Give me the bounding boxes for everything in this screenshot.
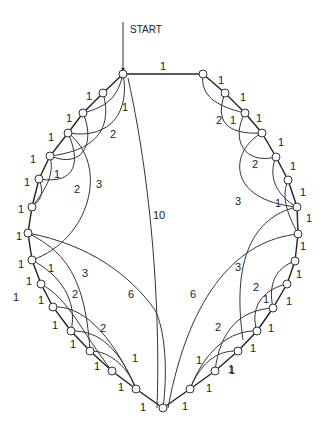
edge-weight: 3 — [235, 195, 241, 207]
edge-weight: 1 — [140, 401, 146, 413]
edge-weight: 1 — [218, 74, 224, 86]
left-arc-3 — [50, 93, 106, 156]
node — [108, 367, 116, 375]
left-arc-2 — [68, 74, 124, 134]
node — [291, 257, 299, 265]
edge-weight: 1 — [196, 354, 202, 366]
node — [49, 303, 57, 311]
right-long-arc — [168, 234, 298, 408]
node — [293, 203, 301, 211]
edge-weight: 1 — [263, 293, 269, 305]
node — [186, 385, 194, 393]
edge-weight: 1 — [296, 268, 302, 280]
node — [211, 367, 219, 375]
node — [269, 304, 277, 312]
edge-weight: 1 — [16, 230, 22, 242]
edge-weight: 1 — [182, 400, 188, 412]
edge-weight-labels: 1111111111111111212313221111111111111111… — [13, 74, 312, 413]
edge-weight: 1 — [132, 352, 138, 364]
edge-weight: 1 — [300, 186, 306, 198]
edge-weight: 1 — [48, 131, 54, 143]
node — [28, 256, 36, 264]
edge-weight: 1 — [66, 112, 72, 124]
edge-weight: 1 — [240, 91, 246, 103]
edge-weight: 1 — [86, 90, 92, 102]
edge-weight: 1 — [229, 364, 235, 376]
edge-weight: 1 — [18, 258, 24, 270]
node — [64, 129, 72, 137]
edge-weight: 1 — [70, 338, 76, 350]
node — [199, 70, 207, 78]
node — [241, 109, 249, 117]
node — [284, 176, 292, 184]
node — [221, 89, 229, 97]
node — [253, 327, 261, 335]
edge-weight: 2 — [215, 321, 221, 333]
edge-weight: 1 — [290, 160, 296, 172]
node — [294, 230, 302, 238]
node — [258, 129, 266, 137]
edge-weight: 1 — [250, 342, 256, 354]
edge-weight: 3 — [96, 178, 102, 190]
right-long-weight: 6 — [190, 288, 196, 300]
node — [272, 153, 280, 161]
edge-weight: 1 — [306, 212, 312, 224]
edge-weight: 1 — [300, 240, 306, 252]
left-long-weight: 6 — [128, 288, 134, 300]
start-label: START — [130, 24, 162, 35]
edge-weight: 3 — [235, 261, 241, 273]
edge-weight: 3 — [82, 267, 88, 279]
edge-weight: 1 — [30, 153, 36, 165]
node — [283, 280, 291, 288]
right-arc-6 — [240, 207, 297, 340]
node — [86, 347, 94, 355]
graph-svg: START 1 6 10 6 — [0, 0, 326, 436]
node — [35, 175, 43, 183]
node — [46, 152, 54, 160]
left-arc-8 — [28, 233, 90, 351]
edge-weight: 1 — [26, 275, 32, 287]
edge-weight: 1 — [54, 168, 60, 180]
edge-weight: 1 — [24, 176, 30, 188]
node — [132, 385, 140, 393]
node — [79, 109, 87, 117]
edge-weight: 2 — [253, 281, 259, 293]
edge-weight: 1 — [275, 197, 281, 209]
node — [28, 203, 36, 211]
edge-weight: 2 — [216, 114, 222, 126]
center-edge-weight: 10 — [153, 209, 165, 221]
edge-weight: 1 — [13, 291, 19, 303]
edge-weight: 1 — [94, 360, 100, 372]
node — [67, 327, 75, 335]
edge-weight: 1 — [48, 262, 54, 274]
edge-weight: 1 — [286, 295, 292, 307]
left-arc-11 — [53, 307, 136, 389]
edge-weight: 1 — [38, 294, 44, 306]
edge-weight: 2 — [110, 128, 116, 140]
edge-weight: 1 — [122, 101, 128, 113]
node — [37, 280, 45, 288]
node — [119, 70, 127, 78]
edge-weight: 1 — [52, 319, 58, 331]
edge-weight: 1 — [206, 382, 212, 394]
edge-weight: 1 — [18, 203, 24, 215]
edge-weight: 1 — [230, 114, 236, 126]
node — [99, 89, 107, 97]
edge-weight: 1 — [278, 136, 284, 148]
graph-diagram: START 1 6 10 6 — [0, 0, 326, 436]
edge-weight: 1 — [268, 322, 274, 334]
edge-weight: 1 — [256, 112, 262, 124]
node — [234, 347, 242, 355]
left-long-arc-tail — [155, 310, 165, 408]
edge-weight: 2 — [72, 288, 78, 300]
edge-weight: 1 — [118, 381, 124, 393]
edge-weight: 2 — [74, 183, 80, 195]
node — [24, 229, 32, 237]
edge-weight: 2 — [252, 158, 258, 170]
top-edge-weight: 1 — [160, 60, 166, 72]
right-arc-9 — [215, 308, 273, 371]
node — [159, 404, 167, 412]
left-chain — [28, 74, 163, 408]
edge-weight: 2 — [100, 322, 106, 334]
